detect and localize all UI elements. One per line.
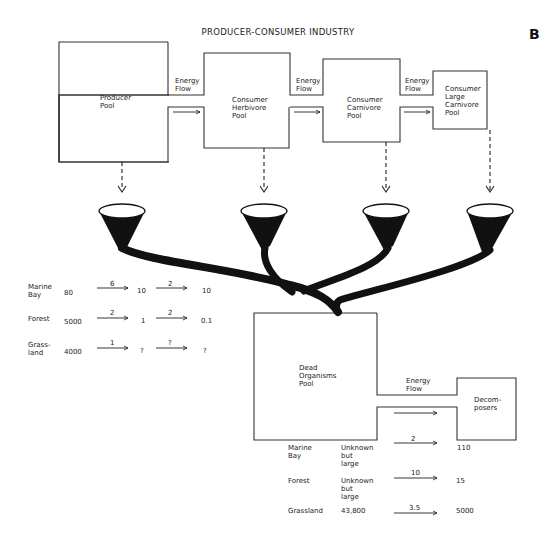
row-marine-bay-label: Marine Bay [28, 283, 52, 299]
value: Unknown but large [341, 444, 374, 468]
diagram-canvas [0, 0, 556, 534]
value: Unknown but large [341, 477, 374, 501]
flow-value: 10 [411, 469, 420, 477]
value: 10 [137, 287, 146, 295]
flow-value: 3.5 [409, 504, 420, 512]
carnivore-pool-label: Consumer Carnivore Pool [347, 96, 383, 120]
energy-flow-label-3: Energy Flow [405, 77, 430, 93]
large-carnivore-pool-label: Consumer Large Carnivore Pool [445, 85, 481, 117]
energy-flow-label-2: Energy Flow [296, 77, 321, 93]
flow-value: 2 [110, 309, 114, 317]
herbivore-pool-label: Consumer Herbivore Pool [232, 96, 268, 120]
row-forest-label: Forest [288, 477, 309, 485]
funnel-large-carnivore-icon [467, 204, 513, 252]
value: 10 [202, 287, 211, 295]
row-grassland-label: Grassland [288, 507, 323, 515]
row-grassland-label: Grass- land [28, 341, 50, 357]
flow-value: ? [168, 339, 172, 347]
funnel-carnivore-icon [363, 204, 409, 250]
value: 5000 [64, 318, 82, 326]
funnel-producer-icon [99, 204, 145, 250]
flow-value: 1 [110, 339, 114, 347]
value: ? [203, 347, 207, 355]
flow-value: 2 [168, 280, 172, 288]
energy-flow-label-4: Energy Flow [406, 377, 431, 393]
flow-value: 6 [110, 280, 114, 288]
flow-value: 2 [411, 435, 415, 443]
producer-pool-label: Producer Pool [100, 94, 131, 110]
value: 0.1 [201, 317, 212, 325]
value: 80 [64, 289, 73, 297]
value: 1 [141, 317, 145, 325]
value: ? [140, 347, 144, 355]
flow-value: 2 [168, 309, 172, 317]
value: 110 [457, 444, 470, 452]
value: 15 [456, 477, 465, 485]
value: 4000 [64, 348, 82, 356]
row-forest-label: Forest [28, 315, 49, 323]
row-marine-bay-label: Marine Bay [288, 444, 312, 460]
pipes [122, 248, 490, 312]
funnels [99, 204, 513, 252]
value: 5000 [456, 507, 474, 515]
dead-organisms-pool-label: Dead Organisms Pool [299, 364, 337, 388]
value: 43,800 [341, 507, 366, 515]
energy-flow-label-1: Energy Flow [175, 77, 200, 93]
funnel-herbivore-icon [241, 204, 287, 250]
decomposers-pool-label: Decom- posers [474, 396, 501, 412]
